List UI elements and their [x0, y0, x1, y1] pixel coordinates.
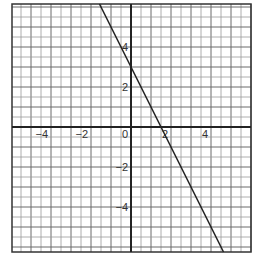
x-tick-label: −2 [75, 128, 88, 140]
coordinate-plane: −4−2024 42−2−4 [0, 0, 257, 267]
x-tick-label: 0 [122, 128, 128, 140]
y-tick-label: −4 [115, 201, 128, 213]
x-tick-label: 4 [202, 128, 208, 140]
y-tick-label: 2 [122, 81, 128, 93]
y-tick-label: −2 [115, 161, 128, 173]
x-tick-label: −4 [35, 128, 48, 140]
